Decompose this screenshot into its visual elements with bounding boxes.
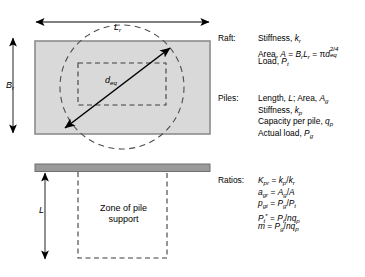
raft-stiffness-line: Stiffness, kr (258, 33, 341, 45)
ratio-agr-line: agr = Ag/A (258, 187, 300, 199)
piles-notes-block: Piles: Length, L; Area, Ag Stiffness, kp… (218, 93, 333, 139)
piles-capacity-line: Capacity per pile, qp (258, 116, 333, 128)
ratios-lines: Kpr = kp/kr agr = Ag/A pgt = Pg/Pt Pt* =… (258, 175, 300, 233)
ratio-kpr-line: Kpr = kp/kr (258, 175, 300, 187)
piles-actual-load-line: Actual load, Pg (258, 128, 333, 140)
ratio-pgt-line: pgt = Pg/Pt (258, 198, 300, 210)
lr-label: Lr (114, 22, 121, 33)
nomenclature-panel: Raft: Stiffness, kr Area, A = BrLr = πd2… (218, 0, 365, 277)
figure-canvas: Lr Br deq L Zone of pile support Raft: S… (0, 0, 365, 277)
ratios-notes-block: Ratios: Kpr = kp/kr agr = Ag/A pgt = Pg/… (218, 175, 300, 233)
piles-label: Piles: (218, 93, 258, 139)
area-semi-word: ; Area, (293, 93, 317, 103)
pile-length-label: L (39, 205, 44, 215)
raft-label: Raft: (218, 33, 258, 68)
stiffness-word: Stiffness, (258, 33, 292, 43)
zone-line-1: Zone of pile (86, 203, 161, 214)
stiffness-word-2: Stiffness, (258, 105, 292, 115)
piles-stiffness-line: Stiffness, kp (258, 105, 333, 117)
zone-line-2: support (86, 214, 161, 225)
raft-area-line: Area, A = BrLr = πd2/4eq (258, 45, 341, 57)
ratio-m-line: m = Pg/nqp (258, 221, 300, 233)
raft-lines: Stiffness, kr Area, A = BrLr = πd2/4eq L… (258, 33, 341, 68)
deq-label: deq (105, 75, 117, 86)
load-word: Load, (258, 56, 279, 66)
capacity-word: Capacity per pile, (258, 116, 323, 126)
piles-lines: Length, L; Area, Ag Stiffness, kp Capaci… (258, 93, 333, 139)
ratios-label: Ratios: (218, 175, 258, 233)
br-label: Br (6, 80, 14, 91)
piles-length-area-line: Length, L; Area, Ag (258, 93, 333, 105)
raft-notes-block: Raft: Stiffness, kr Area, A = BrLr = πd2… (218, 33, 341, 68)
ratio-pt-star-line: Pt* = Pt/nqp (258, 210, 300, 222)
raft-section-bar (35, 164, 210, 172)
pile-support-zone-label: Zone of pile support (86, 203, 161, 225)
actual-load-word: Actual load, (258, 128, 302, 138)
length-word: Length, (258, 93, 286, 103)
